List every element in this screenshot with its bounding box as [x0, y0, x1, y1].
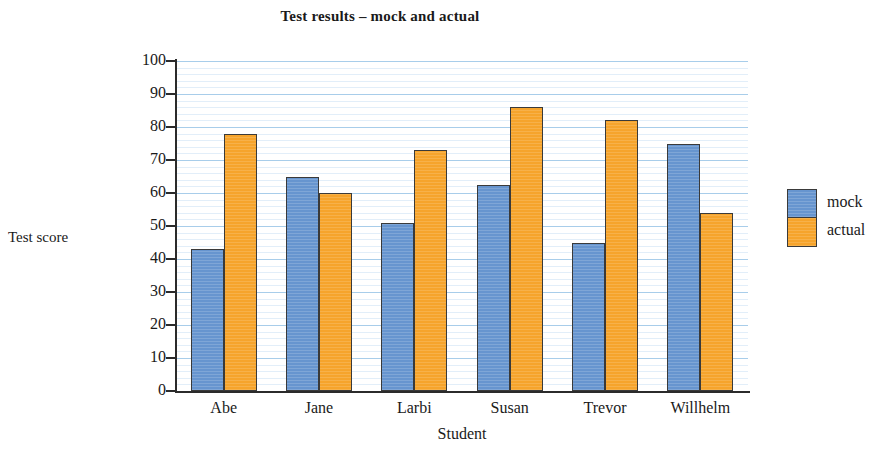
legend-swatch-actual — [788, 218, 816, 246]
bar-actual-susan — [510, 107, 543, 391]
x-axis-line — [175, 391, 750, 393]
bar-actual-larbi — [414, 150, 447, 391]
x-axis-label-abe: Abe — [176, 399, 271, 417]
y-axis-tick-label: 20 — [120, 316, 166, 332]
bar-actual-jane — [319, 193, 352, 391]
y-axis-tick-label: 10 — [120, 349, 166, 365]
bar-mock-abe — [191, 249, 224, 391]
bar-mock-jane — [286, 177, 319, 392]
y-axis-tick — [166, 192, 176, 194]
y-axis-tick-label: 80 — [120, 118, 166, 134]
bar-series-container — [176, 61, 748, 391]
x-axis-label-susan: Susan — [462, 399, 557, 417]
legend-swatch-mock — [788, 190, 816, 218]
y-axis-tick-label: 60 — [120, 184, 166, 200]
y-axis-tick — [166, 357, 176, 359]
plot-area — [176, 61, 748, 391]
bar-mock-trevor — [572, 243, 605, 392]
bar-mock-susan — [477, 185, 510, 391]
x-axis-label-larbi: Larbi — [367, 399, 462, 417]
bar-chart: Test results – mock and actual 100908070… — [0, 0, 886, 449]
bar-mock-willhelm — [667, 144, 700, 392]
y-axis-tick-label: 30 — [120, 283, 166, 299]
y-axis-tick-label: 90 — [120, 85, 166, 101]
y-axis-tick — [166, 93, 176, 95]
legend-label-actual: actual — [827, 221, 865, 239]
x-axis-label-willhelm: Willhelm — [653, 399, 748, 417]
y-axis-tick — [166, 258, 176, 260]
legend-label-mock: mock — [827, 193, 863, 211]
y-axis-tick — [166, 324, 176, 326]
y-axis-tick — [166, 126, 176, 128]
y-axis-tick-label: 70 — [120, 151, 166, 167]
x-axis-title: Student — [176, 425, 748, 443]
y-axis-tick-label: 100 — [120, 52, 166, 68]
y-axis-tick — [166, 225, 176, 227]
bar-actual-trevor — [605, 120, 638, 391]
y-axis-tick-label: 0 — [120, 382, 166, 398]
bar-mock-larbi — [381, 223, 414, 391]
y-axis-tick — [166, 60, 176, 62]
x-axis-label-trevor: Trevor — [557, 399, 652, 417]
y-axis-tick-label: 50 — [120, 217, 166, 233]
y-axis-tick-labels: 1009080706050403020100 — [104, 0, 166, 449]
bar-actual-abe — [224, 134, 257, 391]
y-axis-tick-label: 40 — [120, 250, 166, 266]
bar-actual-willhelm — [700, 213, 733, 391]
legend-swatch-box — [787, 189, 817, 247]
y-axis-tick — [166, 390, 176, 392]
y-axis-tick — [166, 159, 176, 161]
y-axis-tick — [166, 291, 176, 293]
y-axis-title: Test score — [8, 229, 104, 246]
x-axis-label-jane: Jane — [271, 399, 366, 417]
